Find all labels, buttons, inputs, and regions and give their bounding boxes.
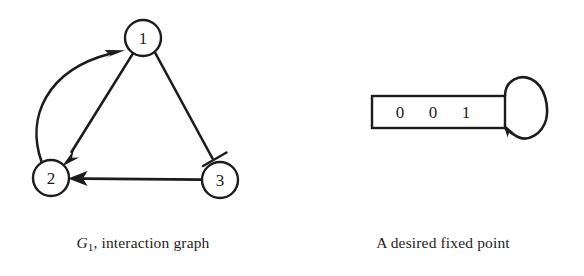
edge-1-to-2-line (72, 53, 134, 152)
graph-node-3-label: 3 (216, 171, 225, 190)
panel-interaction-graph: 1 2 3 G1, interaction graph (0, 0, 292, 276)
tape-self-loop (504, 77, 548, 138)
tape-cell-1[interactable]: 0 (429, 103, 438, 122)
edge-1-to-3 (155, 53, 227, 167)
graph-node-1-label: 1 (139, 29, 148, 48)
graph-node-3[interactable]: 3 (202, 162, 238, 198)
edge-3-to-2-line (84, 179, 202, 180)
tape-cell-2[interactable]: 1 (462, 103, 471, 122)
tape-cell-0[interactable]: 0 (396, 103, 405, 122)
panel-fixed-point: 0 0 1 A desired fixed point (292, 0, 584, 276)
caption-graph-symbol: G (77, 234, 88, 251)
graph-node-2[interactable]: 2 (33, 160, 69, 196)
edge-3-to-2 (68, 171, 202, 186)
caption-interaction-graph: G1, interaction graph (0, 234, 289, 253)
caption-fixed-point: A desired fixed point (297, 234, 584, 251)
figure-root: 1 2 3 G1, interaction graph (0, 0, 584, 276)
graph-node-2-label: 2 (47, 169, 56, 188)
tape-rectangle (372, 96, 505, 128)
edge-1-to-3-line (155, 53, 213, 159)
graph-node-1[interactable]: 1 (125, 20, 161, 56)
edge-2-to-1 (37, 50, 125, 162)
caption-graph-rest: , interaction graph (93, 234, 209, 251)
tape-self-loop-arc (505, 77, 547, 138)
